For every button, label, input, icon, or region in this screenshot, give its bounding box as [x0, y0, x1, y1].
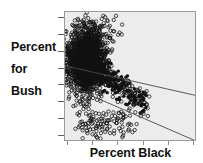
data-point — [105, 80, 108, 83]
data-point — [74, 104, 77, 107]
data-point — [134, 111, 137, 114]
data-point — [76, 69, 79, 72]
data-point — [128, 114, 131, 117]
data-point — [126, 103, 129, 106]
data-point — [105, 113, 108, 116]
data-point — [111, 39, 114, 42]
data-point — [110, 114, 113, 117]
data-point — [73, 57, 76, 60]
data-point — [98, 86, 101, 89]
data-point — [111, 95, 114, 98]
data-point — [107, 61, 110, 64]
x-axis-label: Percent Black — [64, 146, 197, 160]
scatter-canvas — [64, 11, 196, 141]
data-point — [142, 109, 145, 112]
data-point — [93, 65, 96, 68]
y-axis-label-line-1: Percent — [11, 36, 61, 58]
data-point — [91, 110, 94, 113]
data-point — [87, 17, 90, 20]
data-point — [80, 52, 83, 55]
data-point — [120, 23, 123, 26]
data-point — [64, 37, 66, 40]
data-point — [87, 46, 90, 49]
data-point — [130, 84, 133, 87]
data-point — [127, 95, 130, 98]
data-point — [135, 122, 138, 125]
data-point — [74, 127, 77, 130]
data-point — [115, 98, 118, 101]
data-point — [104, 69, 107, 72]
data-point — [81, 97, 84, 100]
data-point — [101, 123, 104, 126]
data-point — [99, 132, 102, 135]
data-point — [107, 66, 110, 69]
data-point — [117, 87, 120, 90]
y-axis-label-line-3: Bush — [11, 80, 61, 102]
data-point — [107, 110, 110, 113]
data-point — [76, 50, 79, 53]
x-axis-tick — [67, 141, 68, 145]
scatter-plot-figure: Percent for Bush Percent Black — [0, 0, 203, 163]
data-point — [112, 18, 115, 21]
data-point — [137, 94, 140, 97]
data-point — [97, 83, 100, 86]
data-point — [124, 84, 127, 87]
data-point — [131, 130, 134, 133]
data-point — [103, 89, 106, 92]
data-point — [122, 94, 125, 97]
data-point — [81, 137, 84, 140]
data-point — [108, 131, 111, 134]
x-axis-tick — [193, 141, 194, 145]
data-point — [82, 107, 85, 110]
x-axis-tick — [117, 141, 118, 145]
data-point — [87, 107, 90, 110]
data-point — [114, 14, 117, 17]
data-point — [130, 94, 133, 97]
plot-area — [64, 11, 196, 141]
data-point — [83, 42, 86, 45]
data-point — [72, 104, 75, 107]
data-point — [148, 95, 151, 98]
data-point — [108, 125, 111, 128]
data-point — [100, 17, 103, 20]
data-point — [112, 71, 115, 74]
data-point — [86, 50, 89, 53]
data-point — [120, 100, 123, 103]
data-point — [73, 19, 76, 22]
data-point — [142, 90, 145, 93]
data-point — [133, 98, 136, 101]
data-point — [113, 88, 116, 91]
data-point — [113, 114, 116, 117]
x-axis-tick — [168, 141, 169, 145]
data-point — [112, 111, 115, 114]
data-point — [101, 128, 104, 131]
data-point — [124, 76, 127, 79]
data-point — [117, 69, 120, 72]
data-point — [95, 44, 98, 47]
data-point — [83, 57, 86, 60]
data-point — [100, 57, 103, 60]
data-point — [119, 129, 122, 132]
data-point — [106, 41, 109, 44]
data-point — [95, 129, 98, 132]
data-point — [107, 71, 110, 74]
data-point — [85, 11, 88, 14]
data-point — [73, 61, 76, 64]
data-point — [84, 112, 87, 115]
y-axis-label: Percent for Bush — [11, 36, 61, 102]
data-point — [78, 62, 81, 65]
y-axis-label-line-2: for — [11, 58, 61, 80]
data-point — [146, 114, 149, 117]
data-point — [136, 102, 139, 105]
data-point — [86, 131, 89, 134]
data-point — [77, 56, 80, 59]
x-axis-tick — [143, 141, 144, 145]
data-point — [81, 77, 84, 80]
data-point — [68, 91, 71, 94]
data-points-group — [64, 11, 151, 141]
data-point — [99, 137, 102, 140]
x-axis-tick — [92, 141, 93, 145]
